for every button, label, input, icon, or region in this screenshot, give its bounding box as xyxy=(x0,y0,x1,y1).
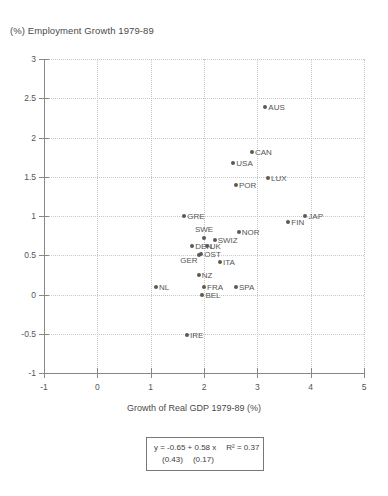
gridline-horizontal xyxy=(44,98,364,99)
x-axis-title: Growth of Real GDP 1979-89 (%) xyxy=(0,403,388,413)
y-tick-mark xyxy=(39,98,49,99)
data-point-label: JAP xyxy=(308,213,323,221)
data-point-marker xyxy=(250,150,254,154)
data-point-marker xyxy=(197,273,201,277)
y-tick-mark xyxy=(39,59,49,60)
gridline-horizontal xyxy=(44,177,364,178)
x-tick-label: 3 xyxy=(255,382,260,392)
y-tick-label: 2.5 xyxy=(24,93,36,103)
data-point-label: NL xyxy=(159,283,169,291)
data-point-label: CAN xyxy=(255,148,272,156)
data-point-marker xyxy=(202,236,206,240)
r-squared-value: R² = 0.37 xyxy=(216,443,259,452)
y-tick-mark xyxy=(39,295,49,296)
data-point-marker xyxy=(185,333,189,337)
data-point-marker xyxy=(190,244,194,248)
y-tick-label: 2 xyxy=(31,133,36,143)
y-tick-mark xyxy=(39,177,49,178)
x-tick-mark xyxy=(97,368,98,378)
data-point-marker xyxy=(231,161,235,165)
data-point-marker xyxy=(234,183,238,187)
data-point-marker xyxy=(154,285,158,289)
data-point-label: GRE xyxy=(187,213,204,221)
y-tick-label: 1 xyxy=(31,211,36,221)
data-point-marker xyxy=(202,285,206,289)
y-tick-label: 3 xyxy=(31,54,36,64)
data-point-label: FIN xyxy=(291,219,304,227)
se-slope: (0.17) xyxy=(183,455,214,464)
x-tick-mark xyxy=(151,368,152,378)
x-tick-label: 5 xyxy=(362,382,367,392)
data-point-label: BEL xyxy=(205,291,220,299)
data-point-marker xyxy=(234,285,238,289)
x-tick-mark xyxy=(311,368,312,378)
regression-annotation-box: y = -0.65 + 0.58 xR² = 0.37 (0.43)(0.17) xyxy=(146,437,264,471)
x-tick-label: 2 xyxy=(202,382,207,392)
plot-area: AUSCANUSALUXPORGREJAPFINNORSWESWIZDENUKO… xyxy=(44,59,364,373)
y-tick-mark xyxy=(39,138,49,139)
x-tick-label: 1 xyxy=(148,382,153,392)
data-point-marker xyxy=(266,176,270,180)
gridline-horizontal xyxy=(44,334,364,335)
y-tick-label: 1.5 xyxy=(24,172,36,182)
gridline-horizontal xyxy=(44,138,364,139)
y-tick-label: 0.5 xyxy=(24,250,36,260)
data-point-label: GER xyxy=(180,257,197,265)
gridline-vertical xyxy=(364,59,365,373)
chart-title: (%) Employment Growth 1979-89 xyxy=(10,25,154,36)
data-point-marker xyxy=(205,244,209,248)
data-point-label: NZ xyxy=(202,271,213,279)
x-tick-label: 4 xyxy=(308,382,313,392)
data-point-label: OST xyxy=(204,250,220,258)
x-tick-label: 0 xyxy=(95,382,100,392)
data-point-marker xyxy=(286,220,290,224)
data-point-marker xyxy=(237,230,241,234)
scatter-plot-figure: (%) Employment Growth 1979-89 AUSCANUSAL… xyxy=(0,0,388,496)
data-point-label: POR xyxy=(239,182,256,190)
y-tick-label: 0 xyxy=(31,290,36,300)
y-tick-label: -1 xyxy=(28,368,36,378)
data-point-label: AUS xyxy=(268,103,284,111)
data-point-marker xyxy=(218,260,222,264)
x-tick-mark xyxy=(204,368,205,378)
data-point-marker xyxy=(263,105,267,109)
regression-equation: y = -0.65 + 0.58 x xyxy=(154,443,216,452)
data-point-label: SPA xyxy=(239,283,254,291)
x-tick-mark xyxy=(44,368,45,378)
data-point-label: SWE xyxy=(195,226,213,234)
x-tick-mark xyxy=(257,368,258,378)
data-point-marker xyxy=(200,293,204,297)
y-tick-mark xyxy=(39,216,49,217)
data-point-label: IRE xyxy=(190,332,203,340)
data-point-label: ITA xyxy=(223,259,235,267)
data-point-label: LUX xyxy=(271,175,287,183)
x-tick-label: -1 xyxy=(40,382,48,392)
data-point-marker xyxy=(182,214,186,218)
x-tick-mark xyxy=(364,368,365,378)
gridline-horizontal xyxy=(44,59,364,60)
y-tick-mark xyxy=(39,255,49,256)
y-tick-label: -0.5 xyxy=(21,329,36,339)
data-point-label: USA xyxy=(236,160,252,168)
se-intercept: (0.43) xyxy=(162,455,183,464)
data-point-label: NOR xyxy=(242,228,260,236)
y-tick-mark xyxy=(39,334,49,335)
